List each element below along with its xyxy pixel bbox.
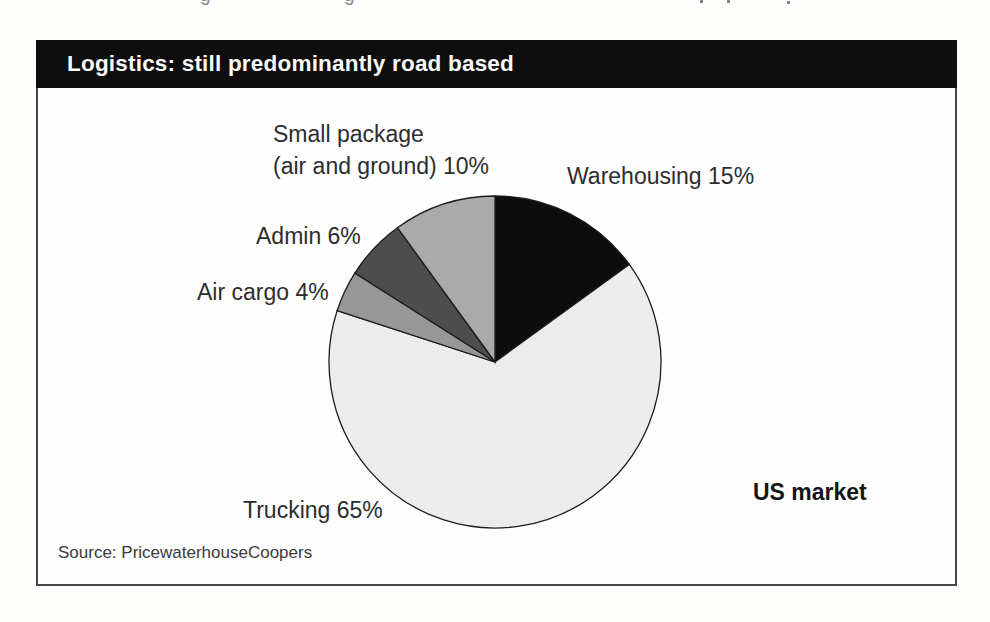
region-label: US market	[753, 476, 867, 508]
text-fragment	[700, 0, 703, 3]
slice-label-trucking: Trucking 65%	[243, 494, 383, 526]
slice-label-air-cargo: Air cargo 4%	[197, 276, 329, 308]
slice-label-warehousing: Warehousing 15%	[567, 160, 754, 192]
figure-title-bar: Logistics: still predominantly road base…	[36, 40, 957, 88]
figure-box: Logistics: still predominantly road base…	[36, 40, 957, 586]
source-note: Source: PricewaterhouseCoopers	[58, 543, 312, 563]
scanned-page: g g Logistics: still predominantly road …	[0, 0, 990, 622]
text-fragment: g	[200, 0, 211, 5]
text-fragment	[787, 1, 790, 4]
figure-title: Logistics: still predominantly road base…	[67, 51, 514, 77]
slice-label-small-package-line2: (air and ground) 10%	[273, 150, 489, 182]
slice-label-small-package-line1: Small package	[273, 118, 489, 150]
pie-chart	[325, 192, 665, 532]
slice-label-small-package: Small package (air and ground) 10%	[273, 118, 489, 182]
text-fragment: g	[344, 0, 355, 5]
text-fragment	[727, 0, 730, 3]
slice-label-admin: Admin 6%	[256, 220, 361, 252]
